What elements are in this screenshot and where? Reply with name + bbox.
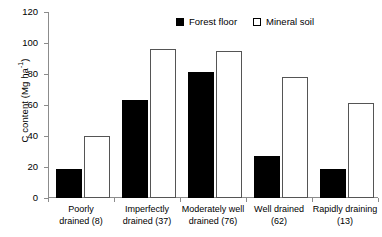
category-label-line: Well drained bbox=[246, 204, 312, 216]
x-axis-tick bbox=[114, 198, 115, 202]
bar-group bbox=[312, 12, 378, 198]
bar-forest-floor bbox=[254, 156, 280, 198]
open-square-icon bbox=[253, 18, 261, 26]
bar-forest-floor bbox=[122, 100, 148, 198]
x-axis-tick bbox=[312, 198, 313, 202]
category-label-line: drained (37) bbox=[114, 216, 180, 228]
x-axis-category-label: Imperfectlydrained (37) bbox=[114, 204, 180, 227]
plot-area: 020406080100120 bbox=[48, 12, 378, 198]
bar-mineral-soil bbox=[282, 77, 308, 198]
legend-item: Mineral soil bbox=[253, 16, 314, 27]
category-label-line: Poorly bbox=[48, 204, 114, 216]
x-axis-category-label: Poorlydrained (8) bbox=[48, 204, 114, 227]
bar-group bbox=[48, 12, 114, 198]
chart-legend: Forest floorMineral soil bbox=[176, 16, 314, 27]
filled-square-icon bbox=[176, 18, 184, 26]
y-axis-tick-label: 20 bbox=[27, 161, 38, 172]
y-axis-tick-label: 100 bbox=[22, 37, 38, 48]
category-label-line: (13) bbox=[312, 216, 378, 228]
x-axis-tick bbox=[378, 198, 379, 202]
bar-group bbox=[180, 12, 246, 198]
x-axis-category-label: Rapidly draining(13) bbox=[312, 204, 378, 227]
bar-forest-floor bbox=[188, 72, 214, 198]
bar-forest-floor bbox=[320, 169, 346, 198]
x-axis-category-label: Moderately welldrained (76) bbox=[180, 204, 246, 227]
y-axis-title-tail: ) bbox=[19, 59, 30, 62]
legend-item-label: Mineral soil bbox=[266, 16, 314, 27]
bar-chart-figure: C content (Mg ha-1) 020406080100120 Fore… bbox=[0, 0, 382, 237]
x-axis-tick bbox=[48, 198, 49, 202]
bar-group bbox=[114, 12, 180, 198]
bar-forest-floor bbox=[56, 169, 82, 198]
y-axis-tick-label: 60 bbox=[27, 99, 38, 110]
legend-item-label: Forest floor bbox=[189, 16, 237, 27]
bar-mineral-soil bbox=[150, 49, 176, 198]
legend-item: Forest floor bbox=[176, 16, 237, 27]
category-label-line: drained (8) bbox=[48, 216, 114, 228]
bar-mineral-soil bbox=[84, 136, 110, 198]
bar-mineral-soil bbox=[216, 51, 242, 198]
category-label-line: Moderately well bbox=[180, 204, 246, 216]
bar-group bbox=[246, 12, 312, 198]
x-axis-tick bbox=[246, 198, 247, 202]
y-axis-title-exponent: -1 bbox=[17, 62, 24, 68]
category-label-line: drained (76) bbox=[180, 216, 246, 228]
x-axis-category-label: Well drained(62) bbox=[246, 204, 312, 227]
category-label-line: (62) bbox=[246, 216, 312, 228]
category-label-line: Imperfectly bbox=[114, 204, 180, 216]
y-axis-tick-label: 80 bbox=[27, 68, 38, 79]
y-axis-tick-label: 120 bbox=[22, 6, 38, 17]
y-axis-tick-label: 40 bbox=[27, 130, 38, 141]
category-label-line: Rapidly draining bbox=[312, 204, 378, 216]
bar-mineral-soil bbox=[348, 103, 374, 198]
x-axis-tick bbox=[180, 198, 181, 202]
y-axis-tick-label: 0 bbox=[33, 192, 38, 203]
